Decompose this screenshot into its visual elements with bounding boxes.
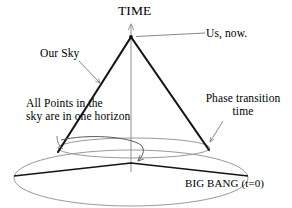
our-sky-leader-arrow — [79, 61, 100, 83]
phase-transition-label-line1: Phase transition — [206, 92, 281, 104]
all-points-horizon-label-line1: All Points in the — [26, 97, 103, 109]
us-now-label: Us, now. — [206, 27, 247, 40]
light-cone-right-leg — [131, 37, 209, 150]
time-axis-label: TIME — [118, 3, 151, 18]
phase-transition-leader-arrow — [210, 121, 223, 142]
phase-transition-ellipse — [58, 138, 210, 158]
us-now-leader-line — [136, 33, 205, 37]
big-bang-label: BIG BANG (t=0) — [185, 177, 264, 189]
our-sky-label: Our Sky — [40, 47, 79, 60]
apex-observer-dot — [129, 35, 133, 39]
all-points-horizon-label: All Points in the sky are in one horizon — [26, 97, 130, 123]
all-points-horizon-label-line2: sky are in one horizon — [26, 110, 130, 123]
phase-transition-label-line2: time — [233, 105, 254, 117]
phase-transition-label: Phase transition time — [199, 92, 287, 118]
light-cone-diagram: TIME Us, now. Our Sky Phase transition t… — [0, 0, 292, 208]
